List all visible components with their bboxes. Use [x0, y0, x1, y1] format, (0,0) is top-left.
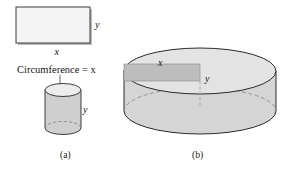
panel-b-caption: (b) — [192, 151, 203, 161]
cylinder-b-height-label: y — [205, 74, 209, 84]
rectangle-shape — [16, 7, 90, 43]
circumference-note: Circumference = x — [17, 65, 96, 76]
cylinder-a-top-ellipse — [45, 84, 81, 97]
rectangle-height-label: y — [95, 20, 99, 30]
cylinder-b-width-label: x — [158, 58, 162, 68]
rectangle-width-label: x — [55, 47, 59, 57]
figure-container: y x Circumference = x y x y (a) (b) — [0, 0, 281, 170]
cylinder-a-height-label: y — [83, 105, 87, 115]
panel-a-caption: (a) — [60, 151, 71, 161]
figure-graphics — [0, 0, 281, 170]
